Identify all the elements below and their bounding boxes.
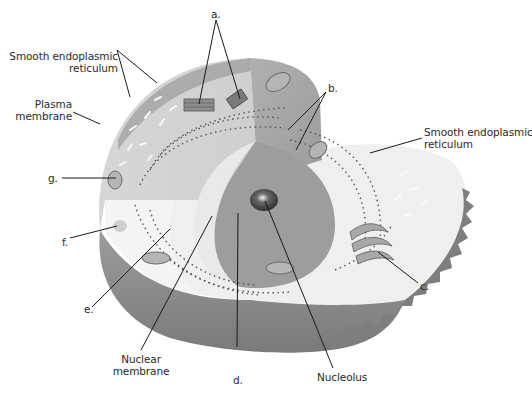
label-smooth-er-left: Smooth endoplasmic reticulum bbox=[8, 50, 118, 74]
label-d: d. bbox=[233, 374, 243, 386]
label-smooth-er-right: Smooth endoplasmic reticulum bbox=[424, 126, 532, 150]
label-c: c. bbox=[420, 280, 429, 292]
label-line: reticulum bbox=[8, 62, 118, 74]
label-a: a. bbox=[211, 8, 221, 20]
label-nuclear-membrane: Nuclear membrane bbox=[106, 353, 176, 377]
label-e: e. bbox=[84, 303, 94, 315]
label-plasma-membrane: Plasma membrane bbox=[4, 98, 72, 122]
leader-plasma-membrane bbox=[73, 112, 100, 124]
label-line: Smooth endoplasmic bbox=[8, 50, 118, 62]
label-line: reticulum bbox=[424, 138, 532, 150]
label-line: Nuclear bbox=[106, 353, 176, 365]
label-g: g. bbox=[48, 172, 58, 184]
label-nucleolus: Nucleolus bbox=[317, 371, 367, 383]
label-line: Plasma bbox=[4, 98, 72, 110]
leader-ser-left-2 bbox=[117, 50, 130, 97]
label-b: b. bbox=[328, 82, 338, 94]
leader-ser-left-1 bbox=[117, 50, 157, 83]
nucleolus-body bbox=[250, 189, 278, 211]
label-line: membrane bbox=[106, 365, 176, 377]
label-f: f. bbox=[62, 236, 68, 248]
cell-diagram: Smooth endoplasmic reticulum Plasma memb… bbox=[0, 0, 532, 403]
label-line: Smooth endoplasmic bbox=[424, 126, 532, 138]
label-line: membrane bbox=[4, 110, 72, 122]
